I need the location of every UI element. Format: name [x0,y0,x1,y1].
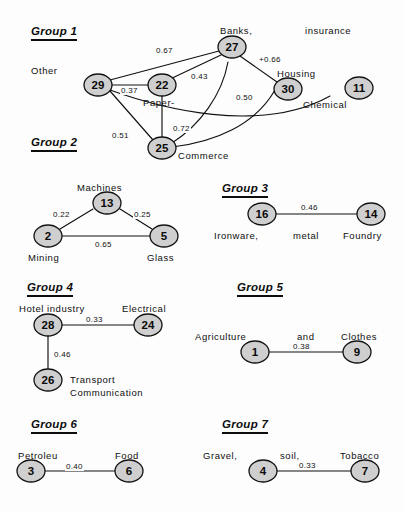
weight-2-13: 0.22 [52,210,71,219]
label-petroleum: Petroleu [18,450,58,461]
node-22[interactable]: 22 [148,74,176,96]
node-3-number: 3 [28,465,34,477]
weight-27-25: 0.50 [235,93,254,102]
group-title-5: Group 5 [237,281,283,297]
weight-2-5: 0.65 [94,240,113,249]
node-14[interactable]: 14 [357,203,385,225]
node-7[interactable]: 7 [351,460,379,482]
node-11-number: 11 [353,82,366,94]
weight-13-5: 0.25 [133,210,152,219]
node-1[interactable]: 1 [241,341,269,363]
node-1-number: 1 [252,346,259,358]
label-chemical: Chemical [303,99,347,110]
node-4-number: 4 [260,465,267,477]
weight-1-9: 0.38 [292,342,311,351]
label-commerce: Commerce [178,150,229,161]
node-3[interactable]: 3 [17,460,45,482]
group-title-1: Group 1 [31,25,77,41]
label-mining: Mining [28,252,59,263]
node-5-number: 5 [161,230,168,242]
label-hotel-industry: Hotel industry [19,303,85,314]
node-11[interactable]: 11 [345,77,373,99]
node-25-number: 25 [156,142,169,154]
node-6[interactable]: 6 [115,460,143,482]
label-electrical: Electrical [122,303,166,314]
node-5[interactable]: 5 [150,225,178,247]
group-title-2: Group 2 [31,136,77,152]
weight-29-25: 0.51 [111,131,130,140]
node-14-number: 14 [365,208,378,220]
weight-4-7: 0.33 [298,461,317,470]
weight-29-11: 0.72 [172,124,191,133]
group2-nodes: 13 2 5 [34,192,178,247]
node-22-number: 22 [156,79,169,91]
node-27[interactable]: 27 [218,36,246,58]
label-agriculture: Agriculture [195,331,246,342]
label-glass: Glass [147,252,174,263]
node-24-number: 24 [142,319,155,331]
weight-29-22: 0.37 [120,86,139,95]
edge-25-30 [172,90,275,147]
label-tobacco: Tobacco [340,450,379,461]
label-foundry: Foundry [343,230,382,241]
node-29-number: 29 [92,79,105,91]
label-food: Food [115,450,139,461]
label-soil: soil, [280,450,300,461]
group-title-6: Group 6 [31,418,77,434]
label-other: Other [31,65,58,76]
node-24[interactable]: 24 [134,314,162,336]
node-27-number: 27 [226,41,239,53]
node-4[interactable]: 4 [249,460,277,482]
weight-16-14: 0.46 [300,203,319,212]
weight-28-26: 0.46 [53,350,72,359]
weight-28-24: 0.33 [85,315,104,324]
weight-29-27: 0.67 [155,46,174,55]
node-9-number: 9 [354,346,360,358]
label-clothes: Clothes [341,331,377,342]
node-30[interactable]: 30 [274,78,302,100]
node-2[interactable]: 2 [34,225,62,247]
group4-edges [48,325,134,369]
node-9[interactable]: 9 [343,341,371,363]
node-25[interactable]: 25 [148,137,176,159]
network-diagram: 29 22 27 30 11 25 [0,0,404,512]
node-13[interactable]: 13 [93,192,121,214]
label-metal: metal [293,230,319,241]
node-16[interactable]: 16 [248,203,276,225]
label-transport: Transport [70,374,115,385]
label-ironware: Ironware, [214,230,259,241]
node-13-number: 13 [101,197,114,209]
group-title-3: Group 3 [222,182,268,198]
node-6-number: 6 [126,465,132,477]
label-banks: Banks, [220,25,252,36]
node-7-number: 7 [362,465,368,477]
label-gravel: Gravel, [203,450,237,461]
node-16-number: 16 [256,208,269,220]
group-title-7: Group 7 [222,418,268,434]
node-2-number: 2 [45,230,51,242]
node-28-number: 28 [42,319,55,331]
label-insurance: insurance [305,25,351,36]
label-communication: Communication [70,387,143,398]
group-title-4: Group 4 [27,281,73,297]
node-28[interactable]: 28 [34,314,62,336]
weight-27-30: +0.66 [258,55,282,64]
label-machines: Machines [77,182,122,193]
node-26[interactable]: 26 [34,369,62,391]
node-26-number: 26 [42,374,55,386]
label-housing: Housing [277,68,316,79]
node-30-number: 30 [282,83,295,95]
label-paper: Paper- [143,97,175,108]
weight-3-6: 0.40 [65,462,84,471]
weight-22-27: 0.43 [190,72,209,81]
group1-nodes: 29 22 27 30 11 25 [84,36,373,159]
label-and: and [297,331,315,342]
node-29[interactable]: 29 [84,74,112,96]
